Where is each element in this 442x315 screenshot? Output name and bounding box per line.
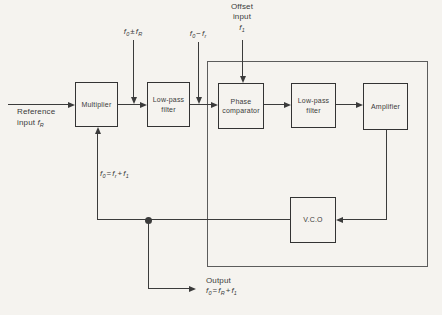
reference-label-line1: Reference <box>17 106 55 117</box>
offset-input-label: Offset input f1 <box>214 2 270 35</box>
wire-amplifier-drop <box>386 130 387 220</box>
offset-frequency-symbol: f1 <box>214 23 270 35</box>
arrow-filter-output-label <box>196 97 202 104</box>
block-phase-comparator-line1: Phase <box>231 97 252 106</box>
reference-input-label: Reference input fR <box>17 106 55 131</box>
filter-output-formula: f0−fr <box>182 29 214 41</box>
wire-multiplier-to-lpf1 <box>118 104 140 105</box>
offset-label-line2: input <box>214 12 270 22</box>
block-lpf1-line1: Low-pass <box>153 95 185 104</box>
wire-vco-output <box>97 219 290 220</box>
loop-frequency-formula: f0=fr+f1 <box>100 169 129 181</box>
wire-filter-output-label <box>198 42 199 97</box>
wire-multiplier-output-label <box>133 40 134 97</box>
block-amplifier: Amplifier <box>363 83 408 130</box>
block-multiplier: Multiplier <box>75 82 118 127</box>
block-vco: V.C.O <box>290 197 336 243</box>
wire-lpf2-to-amplifier <box>336 104 356 105</box>
reference-label-line2: input fR <box>17 117 55 131</box>
wire-amplifier-to-vco <box>343 219 386 220</box>
arrow-into-lpf1 <box>140 102 147 108</box>
block-lowpass-filter-1: Low-pass filter <box>147 82 190 127</box>
arrow-into-multiplier <box>68 102 75 108</box>
output-label: Output f0=fR+f1 <box>206 276 237 298</box>
output-title: Output <box>206 276 237 286</box>
wire-offset-input <box>242 40 243 76</box>
arrow-into-lpf2 <box>284 102 291 108</box>
wire-output-drop <box>148 220 149 289</box>
block-lowpass-filter-2: Low-pass filter <box>291 83 336 128</box>
block-lpf2-line1: Low-pass <box>298 96 330 105</box>
block-vco-label: V.C.O <box>303 215 322 224</box>
wire-feedback-to-multiplier <box>97 134 98 220</box>
junction-dot <box>145 217 152 224</box>
wire-phase-comparator-to-lpf2 <box>264 104 284 105</box>
block-lpf1-line2: filter <box>161 105 175 114</box>
wire-output <box>148 288 189 289</box>
arrow-output <box>189 286 196 292</box>
arrow-into-amplifier <box>356 102 363 108</box>
block-amplifier-label: Amplifier <box>371 102 400 111</box>
arrow-multiplier-output-label <box>131 97 137 104</box>
output-frequency-formula: f0=fR+f1 <box>206 286 237 298</box>
block-phase-comparator-line2: comparator <box>222 106 259 115</box>
multiplier-output-formula: f0±fR <box>115 27 151 39</box>
block-multiplier-label: Multiplier <box>81 100 111 109</box>
wire-lpf1-to-phase-comparator <box>190 104 211 105</box>
block-lpf2-line2: filter <box>306 106 320 115</box>
arrow-offset-into-phase-comparator <box>240 76 246 83</box>
arrow-into-phase-comparator <box>211 102 218 108</box>
wire-reference-input <box>8 104 68 105</box>
arrow-into-vco <box>336 217 343 223</box>
arrow-into-multiplier-bottom <box>95 127 101 134</box>
pll-block-diagram: Multiplier Low-pass filter Phase compara… <box>0 0 442 315</box>
offset-label-line1: Offset <box>214 2 270 12</box>
block-phase-comparator: Phase comparator <box>218 83 264 129</box>
